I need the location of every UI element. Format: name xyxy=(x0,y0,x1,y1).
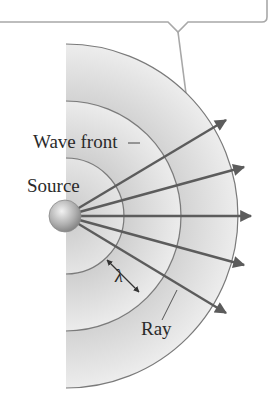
source-sphere-icon xyxy=(49,200,81,232)
ray-label: Ray xyxy=(141,318,172,339)
wave-front-label: Wave front xyxy=(33,131,118,152)
wave-diagram-svg: Wave front Source λ Ray xyxy=(0,0,271,418)
wavelength-label: λ xyxy=(114,266,123,286)
wave-diagram: Wave front Source λ Ray xyxy=(0,0,271,418)
source-label: Source xyxy=(27,175,80,196)
